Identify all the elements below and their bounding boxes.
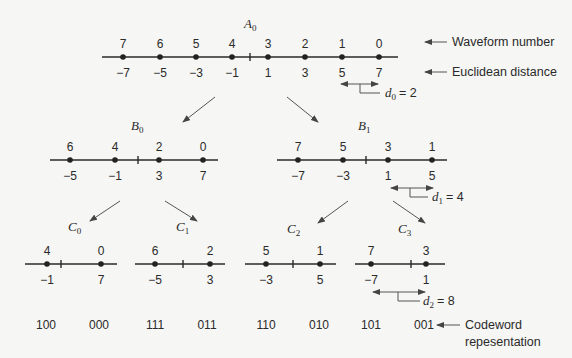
node-c2: C2 5 1 −3 5 [245, 221, 336, 287]
svg-text:6: 6 [152, 244, 159, 258]
svg-text:3: 3 [207, 273, 214, 287]
svg-text:5: 5 [429, 169, 436, 183]
svg-text:d0= 2: d0= 2 [385, 85, 417, 102]
svg-text:5: 5 [263, 244, 270, 258]
svg-text:d2= 8: d2= 8 [423, 293, 455, 310]
node-b1: B1 7 5 3 1 −7 −3 1 5 [277, 118, 447, 183]
distance-marker-d1: d1= 4 [391, 188, 464, 206]
distance-marker-d2: d2= 8 [373, 292, 455, 310]
svg-text:5: 5 [339, 66, 346, 80]
svg-text:1: 1 [385, 169, 392, 183]
svg-text:−5: −5 [63, 169, 77, 183]
annotation-codeword-representation: Codeword repesentation [437, 318, 541, 349]
annotation-waveform-number: Waveform number [425, 35, 554, 49]
svg-text:−1: −1 [225, 66, 239, 80]
svg-text:B1: B1 [358, 118, 370, 135]
svg-text:110: 110 [256, 318, 275, 332]
svg-text:C3: C3 [398, 221, 412, 238]
svg-text:0: 0 [376, 37, 383, 51]
branch-arrow-b1-c3 [393, 201, 425, 223]
svg-text:−3: −3 [189, 66, 203, 80]
svg-text:Codeword: Codeword [465, 318, 522, 332]
branch-arrow-a0-b0 [183, 97, 215, 122]
svg-text:−7: −7 [364, 273, 378, 287]
svg-text:d1= 4: d1= 4 [432, 189, 464, 206]
svg-text:6: 6 [67, 140, 74, 154]
svg-text:3: 3 [302, 66, 309, 80]
svg-text:4: 4 [112, 140, 119, 154]
svg-text:C2: C2 [287, 221, 300, 238]
svg-text:−5: −5 [153, 66, 167, 80]
svg-text:3: 3 [156, 169, 163, 183]
distances-a0: −7 −5 −3 −1 1 3 5 7 [116, 66, 383, 80]
svg-text:−3: −3 [336, 169, 350, 183]
node-a0: A0 7 6 5 4 3 2 1 0 −7 −5 −3 −1 1 3 5 7 [102, 16, 398, 80]
svg-text:0: 0 [98, 244, 105, 258]
svg-text:Euclidean distance: Euclidean distance [452, 65, 557, 79]
svg-text:5: 5 [317, 273, 324, 287]
svg-text:2: 2 [207, 244, 214, 258]
branch-arrow-a0-b1 [287, 97, 318, 122]
svg-text:B0: B0 [131, 118, 144, 135]
svg-text:4: 4 [44, 244, 51, 258]
svg-text:001: 001 [414, 318, 434, 332]
svg-text:−1: −1 [108, 169, 122, 183]
svg-text:3: 3 [423, 244, 430, 258]
svg-text:2: 2 [156, 140, 163, 154]
svg-text:000: 000 [89, 318, 109, 332]
svg-text:1: 1 [429, 140, 436, 154]
svg-text:−3: −3 [259, 273, 273, 287]
branch-arrow-b0-c0 [90, 201, 120, 221]
svg-text:7: 7 [200, 169, 207, 183]
node-c1: C1 6 2 −5 3 [135, 219, 225, 287]
set-partitioning-diagram: A0 7 6 5 4 3 2 1 0 −7 −5 −3 −1 1 3 5 7 [0, 0, 572, 358]
svg-text:4: 4 [229, 37, 236, 51]
svg-text:repesentation: repesentation [465, 335, 541, 349]
svg-text:7: 7 [120, 37, 127, 51]
node-label-a0: A0 [243, 16, 257, 33]
svg-text:100: 100 [36, 318, 56, 332]
svg-text:7: 7 [295, 140, 302, 154]
svg-text:1: 1 [265, 66, 272, 80]
svg-text:1: 1 [317, 244, 324, 258]
branch-arrow-b0-c1 [165, 201, 197, 221]
svg-text:111: 111 [146, 318, 165, 332]
codeword-row: 100 000 111 011 110 010 101 001 [36, 318, 434, 332]
svg-text:C0: C0 [68, 219, 82, 236]
svg-text:−1: −1 [40, 273, 54, 287]
svg-text:1: 1 [339, 37, 346, 51]
svg-text:7: 7 [368, 244, 375, 258]
svg-text:6: 6 [157, 37, 164, 51]
svg-text:Waveform number: Waveform number [452, 35, 554, 49]
annotation-euclidean-distance: Euclidean distance [425, 65, 557, 79]
svg-text:7: 7 [376, 66, 383, 80]
node-c3: C3 7 3 −7 1 [355, 221, 445, 287]
svg-text:101: 101 [361, 318, 381, 332]
svg-text:5: 5 [340, 140, 347, 154]
svg-text:0: 0 [200, 140, 207, 154]
waveform-numbers-a0: 7 6 5 4 3 2 1 0 [120, 37, 383, 51]
svg-text:3: 3 [385, 140, 392, 154]
distance-marker-d0: d0= 2 [341, 84, 417, 102]
svg-text:5: 5 [193, 37, 200, 51]
svg-text:011: 011 [197, 318, 216, 332]
node-c0: C0 4 0 −1 7 [25, 219, 117, 287]
svg-text:1: 1 [423, 273, 430, 287]
svg-text:C1: C1 [176, 219, 189, 236]
svg-text:2: 2 [302, 37, 309, 51]
branch-arrow-b1-c2 [318, 201, 348, 223]
svg-text:7: 7 [98, 273, 105, 287]
node-b0: B0 6 4 2 0 −5 −1 3 7 [50, 118, 218, 183]
svg-text:3: 3 [265, 37, 272, 51]
svg-text:010: 010 [309, 318, 329, 332]
svg-text:−7: −7 [116, 66, 130, 80]
svg-text:−7: −7 [291, 169, 305, 183]
svg-text:−5: −5 [148, 273, 162, 287]
